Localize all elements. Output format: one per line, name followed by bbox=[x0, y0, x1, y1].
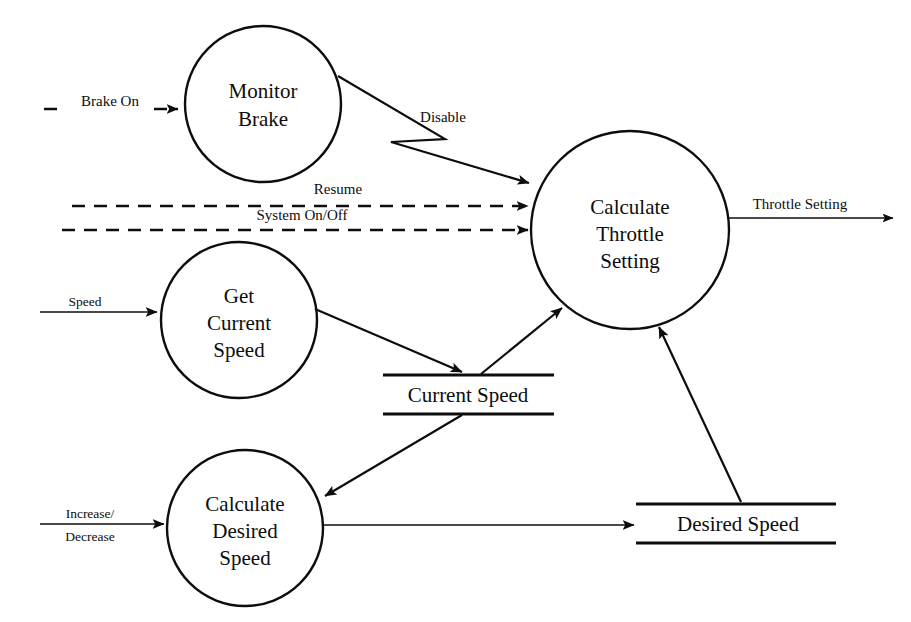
flow-label: Speed bbox=[69, 294, 102, 309]
flow-arrow bbox=[659, 327, 741, 502]
flow-label: Resume bbox=[314, 181, 363, 197]
flow-arrow bbox=[481, 308, 562, 374]
flow-throttle-setting[interactable]: Throttle Setting bbox=[729, 196, 893, 218]
process-label-line-1: Calculate bbox=[205, 492, 284, 516]
flow-system-on-off[interactable]: System On/Off bbox=[62, 207, 528, 230]
data-flow-diagram: Monitor Brake Calculate Throttle Setting… bbox=[0, 0, 911, 622]
flow-arrow bbox=[315, 309, 462, 372]
data-store-desired-speed[interactable]: Desired Speed bbox=[636, 504, 836, 543]
flow-label: Disable bbox=[420, 109, 466, 125]
flow-get-speed-to-store[interactable] bbox=[315, 309, 462, 372]
flow-speed[interactable]: Speed bbox=[40, 294, 157, 312]
diagram-canvas: Monitor Brake Calculate Throttle Setting… bbox=[0, 0, 911, 622]
process-calculate-desired-speed[interactable]: Calculate Desired Speed bbox=[167, 450, 323, 606]
flow-label: System On/Off bbox=[257, 207, 348, 223]
process-label-line-1: Monitor bbox=[229, 79, 298, 103]
flow-arrow bbox=[338, 76, 529, 183]
process-label-line-1: Get bbox=[224, 284, 254, 308]
process-circle[interactable] bbox=[185, 26, 341, 182]
process-label-line-1: Calculate bbox=[590, 195, 669, 219]
flow-label: Throttle Setting bbox=[753, 196, 848, 212]
flow-increase-decrease[interactable]: Increase/ Decrease bbox=[40, 506, 164, 544]
data-store-current-speed[interactable]: Current Speed bbox=[383, 375, 554, 414]
process-label-line-3: Speed bbox=[219, 546, 271, 570]
flow-resume[interactable]: Resume bbox=[72, 181, 528, 206]
process-label-line-2: Throttle bbox=[596, 222, 664, 246]
process-get-current-speed[interactable]: Get Current Speed bbox=[161, 242, 317, 398]
data-store-label: Current Speed bbox=[408, 383, 529, 407]
flow-store-to-throttle[interactable] bbox=[481, 308, 562, 374]
process-label-line-3: Setting bbox=[600, 249, 660, 273]
flow-disable[interactable]: Disable bbox=[338, 76, 529, 183]
process-label-line-2: Brake bbox=[238, 107, 288, 131]
process-label-line-2: Desired bbox=[212, 519, 278, 543]
process-monitor-brake[interactable]: Monitor Brake bbox=[185, 26, 341, 182]
process-calculate-throttle-setting[interactable]: Calculate Throttle Setting bbox=[531, 131, 729, 329]
flow-store-to-desired-speed[interactable] bbox=[325, 415, 462, 496]
flow-label-line-1: Increase/ bbox=[66, 506, 115, 521]
flow-label-line-2: Decrease bbox=[65, 529, 114, 544]
process-label-line-2: Current bbox=[207, 311, 271, 335]
data-store-label: Desired Speed bbox=[677, 512, 799, 536]
flow-arrow bbox=[325, 415, 462, 496]
flow-label: Brake On bbox=[81, 93, 139, 109]
process-label-line-3: Speed bbox=[213, 338, 265, 362]
flow-brake-on[interactable]: Brake On bbox=[44, 93, 178, 112]
flow-desired-store-to-throttle[interactable] bbox=[659, 327, 741, 502]
